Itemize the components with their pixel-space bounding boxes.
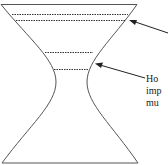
level-dashes bbox=[12, 15, 128, 70]
arrow-middle bbox=[95, 63, 145, 79]
hourglass-diagram bbox=[0, 0, 168, 165]
annotation-line-1: Ho bbox=[146, 73, 158, 84]
annotation-line-2: imp bbox=[146, 85, 162, 96]
arrow-top bbox=[129, 20, 168, 33]
annotation-line-3: mu bbox=[146, 97, 159, 108]
vessel-outline bbox=[1, 5, 138, 164]
